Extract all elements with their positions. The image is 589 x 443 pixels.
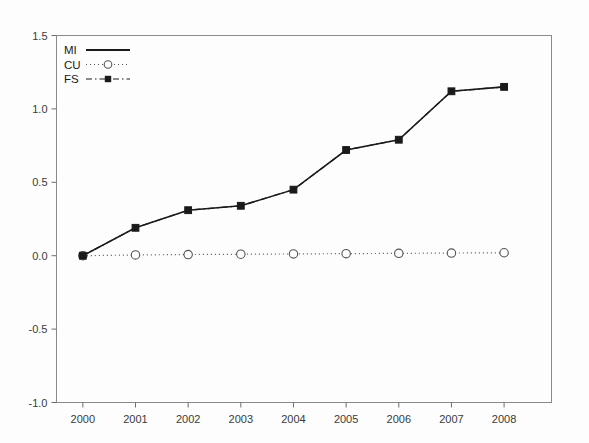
data-point-fs (185, 207, 192, 214)
data-point-fs (448, 88, 455, 95)
data-point-cu (342, 249, 350, 257)
x-tick-label: 2004 (281, 413, 305, 425)
y-tick-label: 0.5 (32, 176, 47, 188)
chart-background (0, 0, 589, 443)
data-point-fs (237, 202, 244, 209)
x-tick-label: 2000 (71, 413, 95, 425)
data-point-fs (290, 186, 297, 193)
x-axis-tick-labels: 200020012002200320042005200620072008 (71, 413, 517, 425)
y-tick-label: 0.0 (32, 250, 47, 262)
x-tick-label: 2005 (334, 413, 358, 425)
x-tick-label: 2001 (123, 413, 147, 425)
legend-label-cu: CU (64, 59, 81, 71)
legend-marker-fs (105, 76, 111, 82)
chart-container: -1.0-0.50.00.51.01.5 2000200120022003200… (0, 0, 589, 443)
x-tick-label: 2003 (229, 413, 253, 425)
data-point-cu (131, 251, 139, 259)
line-chart: -1.0-0.50.00.51.01.5 2000200120022003200… (0, 0, 589, 443)
legend-label-fs: FS (64, 73, 79, 85)
data-point-fs (343, 147, 350, 154)
data-point-cu (395, 249, 403, 257)
data-point-fs (395, 136, 402, 143)
y-tick-label: -1.0 (29, 397, 48, 409)
y-tick-label: 1.5 (32, 30, 47, 42)
x-tick-label: 2006 (387, 413, 411, 425)
data-point-cu (237, 250, 245, 258)
data-point-fs (501, 83, 508, 90)
data-point-cu (500, 249, 508, 257)
y-tick-label: 1.0 (32, 103, 47, 115)
data-point-cu (289, 250, 297, 258)
x-tick-label: 2002 (176, 413, 200, 425)
data-point-cu (447, 249, 455, 257)
data-point-fs (79, 252, 86, 259)
data-point-fs (132, 224, 139, 231)
legend-marker-cu (104, 61, 112, 69)
x-tick-label: 2008 (492, 413, 516, 425)
legend-label-mi: MI (64, 44, 77, 56)
y-tick-label: -0.5 (29, 323, 48, 335)
x-tick-label: 2007 (439, 413, 463, 425)
data-point-cu (184, 250, 192, 258)
